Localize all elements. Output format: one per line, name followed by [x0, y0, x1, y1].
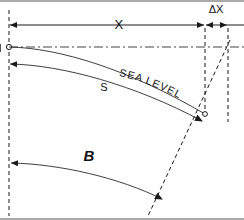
- delta-x-label: ΔX: [209, 3, 224, 15]
- diagram-canvas: X ΔX S B SEA LEVEL: [0, 0, 244, 220]
- translated-profile-dashed-line: [148, 40, 230, 216]
- s-label: S: [100, 81, 107, 93]
- sea-level-label-text: SEA LEVEL: [118, 66, 184, 100]
- sea-level-label: SEA LEVEL: [118, 66, 184, 100]
- profile-intersection-marker: [203, 112, 208, 117]
- x-label: X: [114, 17, 123, 32]
- beta-dimension-curve: [11, 163, 162, 199]
- beta-label: B: [84, 147, 95, 164]
- profile-diagram: X ΔX S B SEA LEVEL: [0, 0, 244, 220]
